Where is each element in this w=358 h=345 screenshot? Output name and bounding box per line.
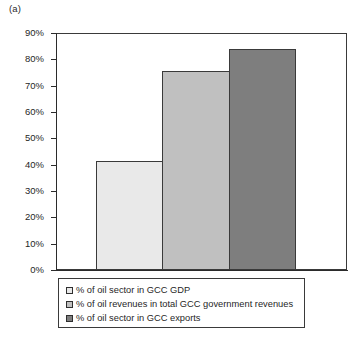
legend-item-label: % of oil sector in GCC GDP [76,285,190,295]
figure-root: (a) 90%80%70%60%50%40%30%20%10%0% % of o… [0,0,358,345]
y-axis-tick-label: 90% [25,28,44,38]
bar [96,161,163,270]
y-axis-tick-label: 40% [25,160,44,170]
y-axis-tick-label: 10% [25,239,44,249]
y-axis-tick-mark [51,270,56,271]
legend-swatch-icon [66,315,73,322]
legend-swatch-icon [66,287,73,294]
y-axis-tick-label: 30% [25,186,44,196]
legend-item: % of oil sector in GCC GDP [66,283,304,297]
bars-layer [56,33,347,270]
bar [229,49,296,270]
y-axis-tick-label: 50% [25,133,44,143]
y-axis-tick-label: 0% [30,265,44,275]
y-axis-tick-label: 20% [25,212,44,222]
y-axis-tick-label: 70% [25,81,44,91]
legend-item: % of oil revenues in total GCC governmen… [66,297,304,311]
y-axis-tick-label: 80% [25,54,44,64]
legend-item-label: % of oil sector in GCC exports [76,313,201,323]
legend-swatch-icon [66,301,73,308]
chart-legend: % of oil sector in GCC GDP% of oil reven… [58,278,305,328]
legend-item: % of oil sector in GCC exports [66,311,304,325]
legend-item-label: % of oil revenues in total GCC governmen… [76,299,293,309]
x-axis-line [56,270,348,271]
y-axis-tick-label: 60% [25,107,44,117]
bar [162,71,229,270]
bar-chart: 90%80%70%60%50%40%30%20%10%0% [0,0,358,278]
